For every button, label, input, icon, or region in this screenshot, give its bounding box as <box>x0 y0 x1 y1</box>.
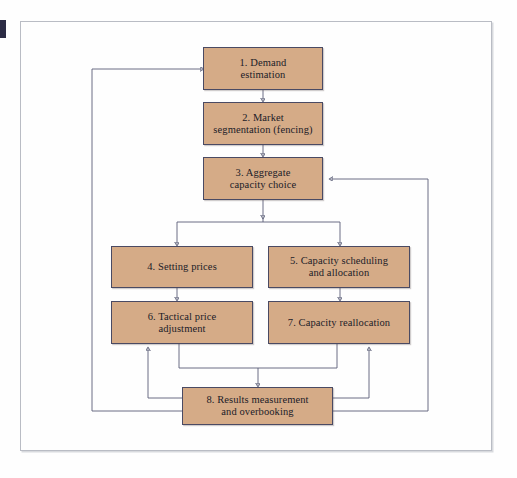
edge-3-split-bar <box>177 218 340 222</box>
node-8-line1: 8. Results measurement <box>206 394 308 406</box>
edge-6-to-8 <box>179 344 258 368</box>
node-8-line2: and overbooking <box>206 406 308 418</box>
edge-8-to-3-feedback <box>330 179 428 411</box>
node-3-line2: capacity choice <box>230 179 297 191</box>
node-6-tactical-price-adjustment[interactable]: 6. Tactical price adjustment <box>111 301 253 344</box>
node-4-line1: 4. Setting prices <box>147 261 217 273</box>
node-3-line1: 3. Aggregate <box>230 167 297 179</box>
node-1-line2: estimation <box>240 69 287 81</box>
node-5-line2: and allocation <box>290 267 388 279</box>
node-1-demand-estimation[interactable]: 1. Demand estimation <box>203 47 323 90</box>
figure-page: 1. Demand estimation 2. Market segmentat… <box>0 0 517 478</box>
node-5-capacity-scheduling[interactable]: 5. Capacity scheduling and allocation <box>268 246 410 288</box>
node-3-aggregate-capacity-choice[interactable]: 3. Aggregate capacity choice <box>203 157 323 200</box>
edge-8-to-6-feedback <box>148 348 182 398</box>
node-6-line1: 6. Tactical price <box>148 311 217 323</box>
node-5-line1: 5. Capacity scheduling <box>290 255 388 267</box>
node-2-market-segmentation[interactable]: 2. Market segmentation (fencing) <box>203 102 323 145</box>
node-2-line1: 2. Market <box>213 112 312 124</box>
node-7-line1: 7. Capacity reallocation <box>288 317 390 329</box>
edge-8-to-7-feedback <box>332 348 369 398</box>
node-1-line1: 1. Demand <box>240 57 287 69</box>
flowchart-canvas: 1. Demand estimation 2. Market segmentat… <box>0 0 517 478</box>
edge-8-to-1-feedback <box>92 69 203 411</box>
node-4-setting-prices[interactable]: 4. Setting prices <box>111 246 253 288</box>
node-8-results-measurement[interactable]: 8. Results measurement and overbooking <box>182 387 333 425</box>
node-7-capacity-reallocation[interactable]: 7. Capacity reallocation <box>268 301 410 344</box>
edge-7-to-8 <box>258 344 337 368</box>
node-6-line2: adjustment <box>148 323 217 335</box>
node-2-line2: segmentation (fencing) <box>213 124 312 136</box>
